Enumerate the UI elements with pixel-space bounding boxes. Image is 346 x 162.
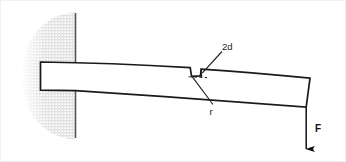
label-notch-radius: r <box>209 106 212 117</box>
figure-canvas: 2d r F <box>0 0 346 162</box>
beam-outline <box>41 62 311 107</box>
label-notch-width: 2d <box>222 41 233 52</box>
beam-diagram-svg: 2d r F <box>0 0 346 162</box>
label-force: F <box>315 123 321 134</box>
notch-depth-tick <box>201 69 202 78</box>
